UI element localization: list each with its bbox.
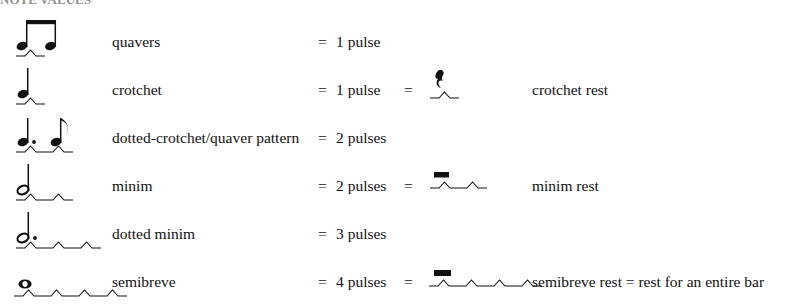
table-row: crotchet=1 pulse=crotchet rest [0, 64, 787, 114]
rest-name-label: crotchet rest [532, 82, 608, 98]
table-row: minim=2 pulses=minim rest [0, 160, 787, 210]
semibreve-icon [0, 256, 110, 304]
pulse-value-label: 4 pulses [336, 274, 386, 290]
note-values-reference-sheet: NOTE VALUES quavers=1 pulsecrotchet=1 pu… [0, 0, 787, 304]
equals-sign: = [318, 178, 327, 194]
pulse-ruler [16, 98, 45, 104]
pulse-value-label: 2 pulses [336, 178, 386, 194]
pulse-ruler [16, 146, 73, 152]
crotchet-icon [0, 64, 110, 114]
equals-sign: = [318, 130, 327, 146]
notehead-hollow [16, 184, 30, 196]
minim-rest-icon [420, 160, 530, 210]
dotted-crotchet-quaver-icon [0, 112, 110, 162]
pulse-value-label: 3 pulses [336, 226, 386, 242]
table-row: dotted-crotchet/quaver pattern=2 pulses [0, 112, 787, 162]
note-name-label: dotted minim [112, 226, 195, 242]
note-name-label: semibreve [112, 274, 176, 290]
note-name-label: dotted-crotchet/quaver pattern [112, 130, 299, 146]
equals-sign: = [318, 274, 327, 290]
rest-equals-sign: = [404, 274, 413, 290]
pulse-ruler [430, 182, 487, 188]
dotted-minim-icon [0, 208, 110, 258]
quaver-flag [61, 118, 68, 135]
minim-rest-glyph [434, 172, 449, 178]
pulse-ruler [16, 50, 45, 56]
equals-sign: = [318, 82, 327, 98]
table-row: quavers=1 pulse [0, 16, 787, 66]
page-title-text: NOTE VALUES [0, 0, 150, 6]
pulse-ruler [430, 92, 459, 98]
minim-icon [0, 160, 110, 210]
equals-sign: = [318, 34, 327, 50]
pulse-ruler [14, 290, 127, 296]
note-name-label: crotchet [112, 82, 162, 98]
pulse-value-label: 2 pulses [336, 130, 386, 146]
table-row: semibreve=4 pulses=semibreve rest = rest… [0, 256, 787, 304]
pulse-ruler [429, 280, 542, 286]
pulse-ruler [16, 242, 101, 248]
semibreve-rest-glyph [434, 270, 451, 276]
notehead-semibreve [18, 279, 31, 288]
note-name-label: quavers [112, 34, 160, 50]
note-name-label: minim [112, 178, 152, 194]
rest-equals-sign: = [404, 82, 413, 98]
augmentation-dot [32, 140, 36, 144]
rest-name-label: semibreve rest = rest for an entire bar [532, 274, 764, 290]
equals-sign: = [318, 226, 327, 242]
rest-name-label: minim rest [532, 178, 599, 194]
pulse-value-label: 1 pulse [336, 82, 380, 98]
pulse-value-label: 1 pulse [336, 34, 380, 50]
crotchet-rest-glyph [435, 70, 443, 88]
beamed-quavers-icon [0, 16, 110, 66]
table-row: dotted minim=3 pulses [0, 208, 787, 258]
page-title-clipped: NOTE VALUES [0, 0, 150, 7]
augmentation-dot [33, 236, 37, 240]
pulse-ruler [16, 194, 73, 200]
crotchet-rest-icon [420, 64, 530, 114]
notehead-hollow [16, 232, 30, 244]
semibreve-rest-icon [420, 256, 530, 304]
quaver-beam [26, 20, 56, 24]
rest-equals-sign: = [404, 178, 413, 194]
